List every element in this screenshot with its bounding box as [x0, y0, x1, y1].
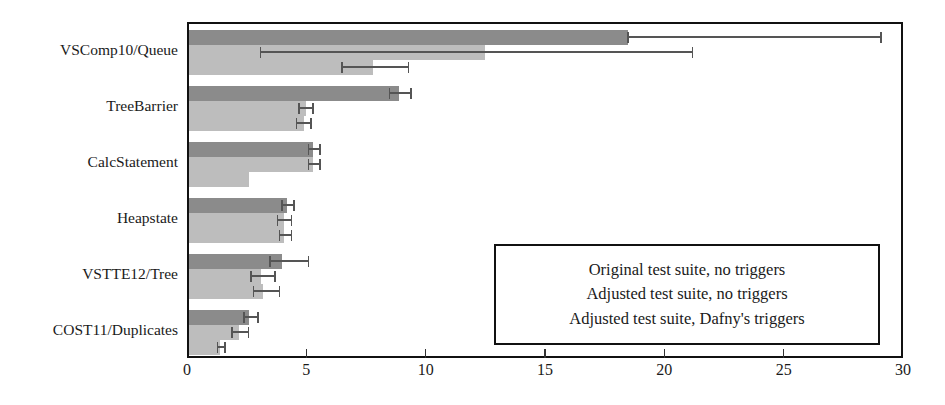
bar: [189, 172, 249, 187]
error-bar-cap-low: [308, 144, 310, 155]
x-axis-tick: [664, 349, 666, 358]
error-bar-line: [628, 36, 881, 38]
error-bar-line: [244, 316, 258, 318]
error-bar-cap-low: [260, 47, 262, 58]
error-bar-cap-high: [312, 103, 314, 114]
error-bar-cap-high: [248, 327, 250, 338]
error-bar-line: [270, 260, 308, 262]
error-bar-line: [253, 290, 279, 292]
legend-entry: Adjusted test suite, no triggers: [586, 283, 787, 305]
error-bar-cap-low: [253, 286, 255, 297]
error-bar-cap-high: [408, 62, 410, 73]
error-bar-cap-high: [319, 159, 321, 170]
error-bar-cap-low: [627, 32, 629, 43]
error-bar-cap-low: [308, 159, 310, 170]
error-bar-line: [389, 92, 410, 94]
error-bar-cap-high: [274, 271, 276, 282]
error-bar-cap-high: [310, 118, 312, 129]
error-bar-cap-high: [279, 286, 281, 297]
bar: [189, 228, 284, 243]
category-label: Heapstate: [0, 210, 178, 226]
bar: [189, 213, 284, 228]
error-bar-cap-high: [257, 312, 259, 323]
x-axis-tick-label: 30: [895, 362, 911, 378]
error-bar-cap-high: [291, 215, 293, 226]
bar: [189, 142, 313, 157]
error-bar-line: [296, 122, 310, 124]
x-axis-tick-label: 20: [656, 362, 672, 378]
category-label: CalcStatement: [0, 154, 178, 170]
error-bar-cap-low: [341, 62, 343, 73]
category-label: VSComp10/Queue: [0, 42, 178, 58]
legend: Original test suite, no triggers Adjuste…: [494, 244, 880, 345]
error-bar-cap-low: [250, 271, 252, 282]
error-bar-cap-low: [269, 256, 271, 267]
bar: [189, 198, 287, 213]
error-bar-cap-high: [319, 144, 321, 155]
error-bar-cap-high: [293, 200, 295, 211]
x-axis-tick-label: 10: [418, 362, 434, 378]
bar: [189, 86, 399, 101]
bar: [189, 157, 313, 172]
legend-entry: Original test suite, no triggers: [589, 259, 786, 281]
x-axis-tick-label: 5: [302, 362, 310, 378]
x-axis-tick-label: 0: [183, 362, 191, 378]
x-axis-tick: [306, 349, 308, 358]
error-bar-line: [261, 51, 693, 53]
x-axis-tick: [783, 349, 785, 358]
category-label: TreeBarrier: [0, 98, 178, 114]
error-bar-cap-high: [291, 230, 293, 241]
x-axis-tick-label: 15: [537, 362, 553, 378]
bar: [189, 254, 282, 269]
error-bar-cap-high: [224, 342, 226, 353]
bar: [189, 340, 220, 355]
error-bar-cap-low: [277, 215, 279, 226]
error-bar-cap-low: [279, 230, 281, 241]
error-bar-cap-high: [692, 47, 694, 58]
error-bar-cap-low: [231, 327, 233, 338]
error-bar-cap-high: [308, 256, 310, 267]
error-bar-line: [232, 331, 249, 333]
category-label: VSTTE12/Tree: [0, 266, 178, 282]
error-bar-cap-low: [243, 312, 245, 323]
error-bar-line: [282, 204, 294, 206]
error-bar-cap-low: [298, 103, 300, 114]
error-bar-cap-high: [880, 32, 882, 43]
category-label: COST11/Duplicates: [0, 322, 178, 338]
legend-entry: Adjusted test suite, Dafny's triggers: [569, 308, 804, 330]
error-bar-line: [342, 66, 409, 68]
error-bar-line: [308, 148, 320, 150]
error-bar-line: [277, 219, 291, 221]
error-bar-cap-low: [217, 342, 219, 353]
bar: [189, 101, 306, 116]
error-bar-cap-low: [296, 118, 298, 129]
error-bar-line: [251, 275, 275, 277]
error-bar-line: [280, 234, 292, 236]
error-bar-cap-low: [389, 88, 391, 99]
error-bar-cap-high: [410, 88, 412, 99]
bar-chart: VSComp10/QueueTreeBarrierCalcStatementHe…: [0, 0, 945, 405]
error-bar-line: [299, 107, 313, 109]
error-bar-line: [308, 163, 320, 165]
x-axis-tick: [544, 349, 546, 358]
bar: [189, 116, 304, 131]
bar: [189, 30, 628, 45]
error-bar-cap-low: [281, 200, 283, 211]
bar: [189, 310, 249, 325]
x-axis-tick: [425, 349, 427, 358]
x-axis-tick-label: 25: [776, 362, 792, 378]
